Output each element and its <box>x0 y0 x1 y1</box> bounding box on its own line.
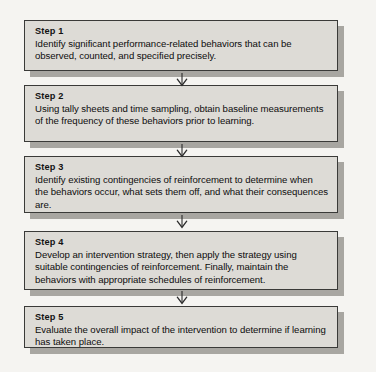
flow-step-2: Step 2 Using tally sheets and time sampl… <box>24 85 338 142</box>
step-title: Step 4 <box>35 237 328 249</box>
step-body: Develop an intervention strategy, then a… <box>35 249 328 286</box>
step-title: Step 5 <box>35 312 328 324</box>
flow-step-4: Step 4 Develop an intervention strategy,… <box>24 231 338 290</box>
step-body: Using tally sheets and time sampling, ob… <box>35 103 328 128</box>
down-arrow-icon <box>175 73 189 87</box>
step-title: Step 2 <box>35 91 328 103</box>
step-box: Step 4 Develop an intervention strategy,… <box>24 231 338 290</box>
flow-step-5: Step 5 Evaluate the overall impact of th… <box>24 306 338 348</box>
step-body: Evaluate the overall impact of the inter… <box>35 324 328 349</box>
step-box: Step 5 Evaluate the overall impact of th… <box>24 306 338 348</box>
step-title: Step 1 <box>35 26 328 38</box>
flow-step-1: Step 1 Identify significant performance-… <box>24 20 338 71</box>
down-arrow-icon <box>175 291 189 305</box>
step-body: Identify significant performance-related… <box>35 38 328 63</box>
step-box: Step 1 Identify significant performance-… <box>24 20 338 71</box>
step-box: Step 3 Identify existing contingencies o… <box>24 156 338 213</box>
down-arrow-icon <box>175 215 189 229</box>
down-arrow-icon <box>175 144 189 158</box>
flow-step-3: Step 3 Identify existing contingencies o… <box>24 156 338 213</box>
step-box: Step 2 Using tally sheets and time sampl… <box>24 85 338 142</box>
flowchart-diagram: Step 1 Identify significant performance-… <box>0 0 376 372</box>
step-title: Step 3 <box>35 162 328 174</box>
step-body: Identify existing contingencies of reinf… <box>35 174 328 211</box>
